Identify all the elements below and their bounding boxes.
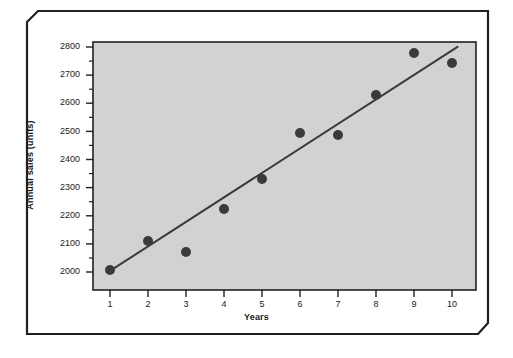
x-tick-label: 1: [97, 299, 123, 309]
x-axis-major-ticks: [110, 290, 452, 297]
x-tick-label: 5: [249, 299, 275, 309]
y-tick-label: 2700: [40, 69, 80, 79]
data-point: [181, 247, 191, 257]
data-point: [371, 90, 381, 100]
y-tick-label: 2800: [40, 41, 80, 51]
y-tick-label: 2100: [40, 238, 80, 248]
x-tick-label: 6: [287, 299, 313, 309]
plot-area-background: [93, 42, 476, 290]
data-point: [333, 130, 343, 140]
data-point: [257, 174, 267, 184]
x-tick-label: 9: [401, 299, 427, 309]
data-point: [409, 48, 419, 58]
y-tick-label: 2500: [40, 126, 80, 136]
x-tick-label: 4: [211, 299, 237, 309]
x-axis-title: Years: [0, 312, 513, 322]
y-tick-label: 2400: [40, 154, 80, 164]
y-tick-label: 2200: [40, 210, 80, 220]
data-point: [105, 265, 115, 275]
x-tick-label: 2: [135, 299, 161, 309]
data-point: [219, 204, 229, 214]
y-axis-major-ticks: [86, 47, 93, 272]
figure-root: 2800 2700 2600 2500 2400 2300 2200 2100 …: [0, 0, 513, 358]
x-tick-label: 8: [363, 299, 389, 309]
x-tick-label: 3: [173, 299, 199, 309]
y-tick-label: 2600: [40, 97, 80, 107]
data-point: [447, 58, 457, 68]
data-point: [143, 236, 153, 246]
y-axis-title: Annual sales (units): [25, 75, 35, 255]
y-tick-label: 2300: [40, 182, 80, 192]
y-tick-label: 2000: [40, 266, 80, 276]
x-tick-label: 10: [439, 299, 465, 309]
x-tick-label: 7: [325, 299, 351, 309]
data-point: [295, 128, 305, 138]
